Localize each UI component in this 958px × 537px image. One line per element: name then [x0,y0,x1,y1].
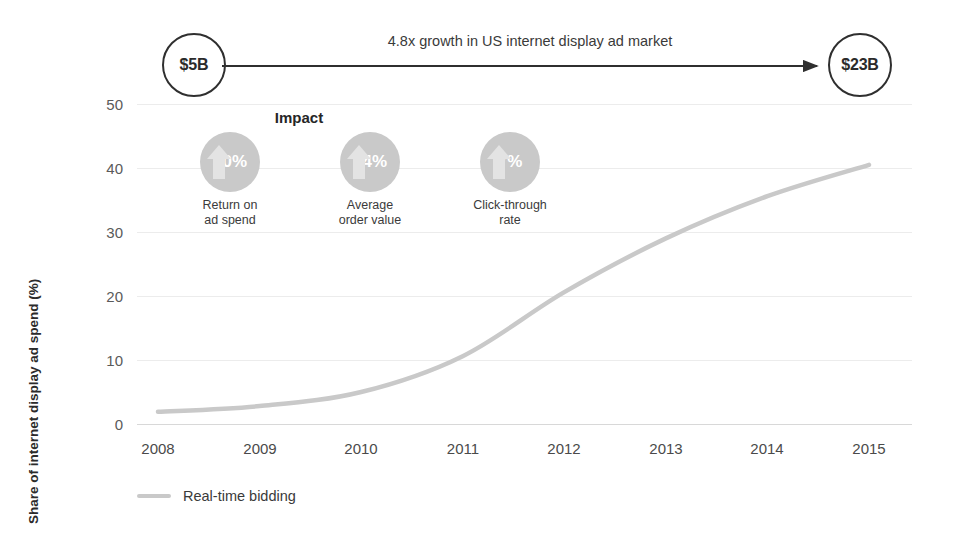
y-tick-20: 20 [106,288,123,305]
growth-end-badge: $23B [828,33,892,97]
impact-label-line2: ad spend [166,213,294,228]
impact-label: Click-through rate [446,198,574,228]
x-axis-baseline [137,424,912,425]
y-axis-title: Share of internet display ad spend (%) [26,204,48,524]
growth-caption: 4.8x growth in US internet display ad ma… [300,33,760,49]
impact-label-line1: Average [306,198,434,213]
up-arrow-icon [486,144,512,180]
impact-bubble: 7% [480,132,540,192]
legend-label-real-time-bidding: Real-time bidding [183,488,296,504]
growth-annotation: $5B 4.8x growth in US internet display a… [0,0,958,100]
impact-label-line2: order value [306,213,434,228]
impact-label-line2: rate [446,213,574,228]
chart-canvas: $5B 4.8x growth in US internet display a… [0,0,958,537]
impact-bubble: 24% [340,132,400,192]
x-tick-2010: 2010 [344,440,377,457]
x-tick-2012: 2012 [547,440,580,457]
legend: Real-time bidding [137,488,296,504]
up-arrow-icon [206,144,232,180]
impact-label: Return on ad spend [166,198,294,228]
up-arrow-icon [346,144,372,180]
x-tick-2014: 2014 [750,440,783,457]
x-tick-2015: 2015 [852,440,885,457]
impact-item-click-through-rate: 7% Click-through rate [446,132,574,228]
y-tick-50: 50 [106,96,123,113]
impact-label-line1: Click-through [446,198,574,213]
legend-swatch-real-time-bidding [137,494,171,498]
x-tick-2008: 2008 [141,440,174,457]
impact-item-average-order-value: 24% Average order value [306,132,434,228]
y-tick-10: 10 [106,352,123,369]
impact-bubble: 30% [200,132,260,192]
y-tick-0: 0 [115,416,123,433]
y-tick-40: 40 [106,160,123,177]
impact-label-line1: Return on [166,198,294,213]
impact-label: Average order value [306,198,434,228]
x-tick-2009: 2009 [243,440,276,457]
x-tick-2011: 2011 [447,440,479,457]
growth-start-badge: $5B [162,33,226,97]
y-tick-30: 30 [106,224,123,241]
impact-item-return-on-ad-spend: 30% Return on ad spend [166,132,294,228]
x-tick-2013: 2013 [649,440,682,457]
impact-title: Impact [275,109,323,126]
growth-arrow-icon [222,48,834,84]
